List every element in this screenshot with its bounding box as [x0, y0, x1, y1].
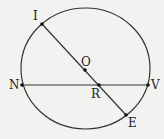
point-V [146, 83, 150, 87]
label-I: I [33, 9, 38, 23]
label-V: V [150, 78, 160, 92]
point-I [40, 22, 44, 26]
label-E: E [128, 116, 137, 130]
label-O: O [81, 55, 91, 69]
label-N: N [9, 78, 20, 92]
point-N [20, 83, 24, 87]
label-R: R [91, 87, 101, 101]
circle-diagram: IONVRE [0, 0, 164, 139]
